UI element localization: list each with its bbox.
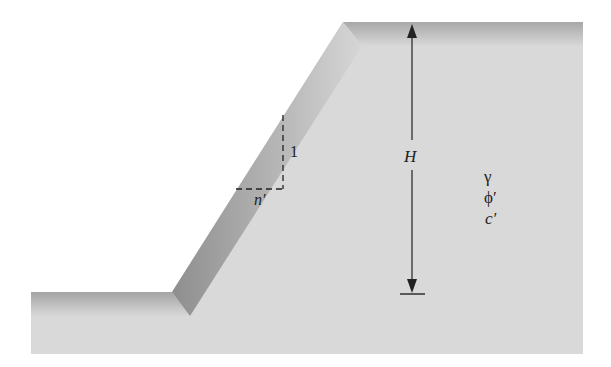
friction-angle-label: ϕ′ [484,189,497,206]
slope-diagram [0,0,611,367]
unit-weight-label: γ [484,168,492,185]
slope-rise-label: 1 [290,144,298,160]
slope-run-label: n′ [254,192,266,208]
cohesion-label: c′ [485,210,496,227]
crest-shading [343,22,583,46]
toe-shading [31,292,190,316]
height-label: H [404,148,416,165]
